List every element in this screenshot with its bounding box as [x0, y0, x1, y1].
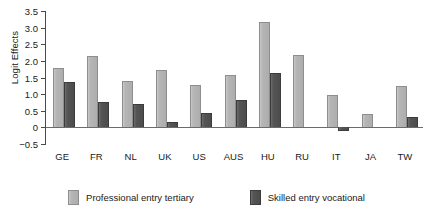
legend-label: Skilled entry vocational	[268, 192, 365, 203]
bar-ge-professional	[53, 68, 64, 128]
bar-uk-professional	[156, 70, 167, 127]
bar-group	[122, 11, 144, 144]
x-axis-label-it: IT	[319, 151, 353, 162]
legend-item-skilled-entry-vocational: Skilled entry vocational	[250, 190, 365, 205]
y-axis-tick-label: 1.5	[25, 72, 38, 83]
bar-group	[293, 11, 315, 144]
bar-nl-professional	[122, 81, 133, 128]
y-axis-tick-label: 0	[33, 122, 38, 133]
bar-group	[190, 11, 212, 144]
x-axis-tick-labels: GEFRNLUKUSAUSHURUITJATW	[45, 151, 423, 167]
legend-label: Professional entry tertiary	[86, 192, 194, 203]
bar-group	[156, 11, 178, 144]
bar-group	[396, 11, 418, 144]
bar-group	[362, 11, 384, 144]
bar-group	[53, 11, 75, 144]
bar-uk-skilled	[167, 122, 178, 127]
bar-fr-professional	[87, 56, 98, 127]
bar-tw-professional	[396, 86, 407, 127]
bar-ge-skilled	[64, 82, 75, 127]
bar-hu-skilled	[270, 73, 281, 127]
bar-aus-skilled	[236, 100, 247, 127]
dark-gray-swatch-icon	[250, 190, 261, 205]
bar-chart: Logit Effects 3.53.02.52.01.51.00.50−0.5…	[0, 0, 433, 217]
x-axis-label-fr: FR	[79, 151, 113, 162]
bar-group	[87, 11, 109, 144]
x-axis-label-tw: TW	[388, 151, 422, 162]
bar-us-professional	[190, 85, 201, 127]
bar-it-skilled	[338, 127, 349, 130]
bar-groups	[46, 11, 423, 144]
bar-ru-professional	[293, 55, 304, 127]
bar-it-professional	[327, 95, 338, 127]
y-axis-tick-label: −0.5	[19, 139, 38, 150]
legend-item-professional-entry-tertiary: Professional entry tertiary	[68, 190, 194, 205]
x-axis-label-hu: HU	[251, 151, 285, 162]
x-axis-label-us: US	[182, 151, 216, 162]
x-axis-label-nl: NL	[114, 151, 148, 162]
bar-us-skilled	[201, 113, 212, 127]
y-axis-tick-label: 3.0	[25, 22, 38, 33]
bar-group	[225, 11, 247, 144]
y-axis-tick-label: 3.5	[25, 6, 38, 17]
y-axis-tick-label: 2.0	[25, 55, 38, 66]
x-axis-label-ja: JA	[353, 151, 387, 162]
bar-aus-professional	[225, 75, 236, 128]
bar-group	[259, 11, 281, 144]
x-axis-label-uk: UK	[148, 151, 182, 162]
x-axis-label-ru: RU	[285, 151, 319, 162]
bar-hu-professional	[259, 22, 270, 127]
y-axis-title: Logit Effects	[9, 18, 20, 98]
y-axis-tick	[41, 144, 46, 145]
x-axis-label-ge: GE	[45, 151, 79, 162]
bar-tw-skilled	[407, 117, 418, 127]
bar-fr-skilled	[98, 102, 109, 127]
y-axis-tick-label: 1.0	[25, 89, 38, 100]
bar-group	[327, 11, 349, 144]
y-axis-tick-label: 0.5	[25, 105, 38, 116]
bar-nl-skilled	[133, 104, 144, 127]
chart-legend: Professional entry tertiary Skilled entr…	[0, 186, 433, 208]
light-gray-swatch-icon	[68, 190, 79, 205]
bar-ja-professional	[362, 114, 373, 127]
x-axis-label-aus: AUS	[216, 151, 250, 162]
y-axis-tick-label: 2.5	[25, 39, 38, 50]
plot-area: 3.53.02.52.01.51.00.50−0.5	[45, 11, 423, 144]
